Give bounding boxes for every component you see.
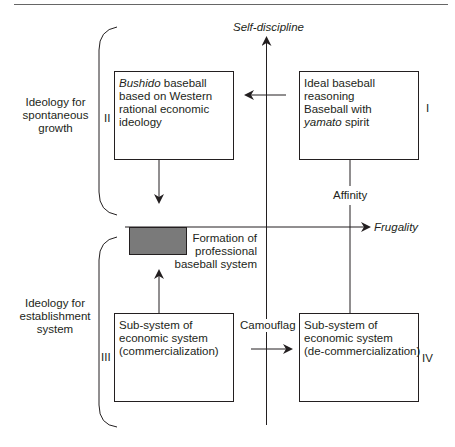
box-i-line-text: spirit: [342, 116, 369, 128]
box-ii-line-text: baseball: [161, 77, 207, 89]
box-ii-line: based on Western: [119, 90, 212, 103]
box-iii-line: (commercialization): [119, 345, 219, 358]
box-iii-line: Sub-system of: [119, 319, 219, 332]
upper-group-line: spontaneous: [18, 109, 93, 122]
upper-group-line: growth: [18, 122, 93, 135]
box-i-italic: yamato: [304, 116, 342, 128]
box-i-line: Baseball with: [304, 103, 375, 116]
formation-line: Formation of: [170, 232, 257, 245]
affinity-label: Affinity: [333, 189, 367, 202]
box-i-line: reasoning: [304, 90, 375, 103]
quadrant-numeral-iv: IV: [422, 352, 433, 365]
box-ii-line: ideology: [119, 116, 212, 129]
box-iv-line: Sub-system of: [304, 319, 420, 332]
horizontal-axis-label: Frugality: [374, 221, 418, 234]
box-ii-italic: Bushido: [119, 77, 161, 89]
box-iii-text: Sub-system of economic system (commercia…: [119, 319, 219, 358]
box-iv-text: Sub-system of economic system (de-commer…: [304, 319, 420, 358]
box-ii-line: rational economic: [119, 103, 212, 116]
upper-group-label: Ideology for spontaneous growth: [18, 96, 93, 135]
vertical-axis-label: Self-discipline: [233, 21, 304, 34]
formation-label: Formation of professional baseball syste…: [170, 232, 257, 271]
box-iv-line: economic system: [304, 332, 420, 345]
box-i-line: Ideal baseball: [304, 77, 375, 90]
quadrant-numeral-ii: II: [104, 112, 110, 125]
quadrant-numeral-i: I: [426, 102, 429, 115]
lower-group-line: establishment: [14, 310, 96, 323]
box-i-line: yamato spirit: [304, 116, 375, 129]
lower-group-line: Ideology for: [14, 297, 96, 310]
box-iii-line: economic system: [119, 332, 219, 345]
camouflag-label: Camouflag: [239, 319, 297, 332]
upper-group-line: Ideology for: [18, 96, 93, 109]
quadrant-numeral-iii: III: [101, 351, 111, 364]
box-iv-line: (de-commercialization): [304, 345, 420, 358]
lower-group-line: system: [14, 323, 96, 336]
box-i-text: Ideal baseball reasoning Baseball with y…: [304, 77, 375, 129]
box-ii-text: Bushido baseball based on Western ration…: [119, 77, 212, 129]
lower-group-label: Ideology for establishment system: [14, 297, 96, 336]
formation-line: professional: [170, 245, 257, 258]
box-ii-line: Bushido baseball: [119, 77, 212, 90]
formation-line: baseball system: [170, 258, 257, 271]
